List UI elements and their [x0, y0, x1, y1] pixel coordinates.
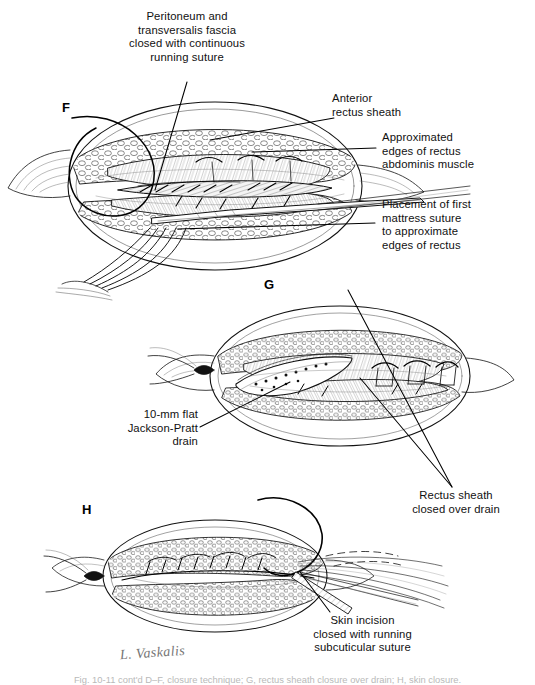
- callout-mattress-suture: Placement of first mattress suture to ap…: [382, 198, 527, 252]
- suture-knot-g: [148, 348, 214, 384]
- figure-page: F G H Peritoneum and transversalis fasci…: [0, 0, 535, 685]
- callout-rectus-sheath-over-drain: Rectus sheath closed over drain: [386, 489, 526, 516]
- panel-letter-f: F: [62, 100, 70, 115]
- panel-letter-g: G: [264, 277, 274, 292]
- panel-letter-h: H: [82, 502, 92, 517]
- callout-peritoneum: Peritoneum and transversalis fascia clos…: [82, 10, 292, 64]
- suture-knot-h: [44, 550, 104, 592]
- callout-skin-incision: Skin incision closed with running subcut…: [280, 614, 445, 655]
- illustration-artwork: [0, 0, 535, 685]
- figure-caption: Fig. 10-11 cont'd D–F, closure technique…: [0, 674, 535, 685]
- panel-h-artwork: [44, 498, 448, 632]
- needle-holder: [292, 572, 418, 614]
- artist-signature: L. Vaskalis: [120, 643, 186, 664]
- callout-approximated-edges: Approximated edges of rectus abdominis m…: [382, 131, 522, 172]
- panel-g-artwork: [148, 306, 514, 446]
- jackson-pratt-drain-artwork: [236, 354, 352, 396]
- callout-anterior-rectus-sheath: Anterior rectus sheath: [332, 92, 452, 119]
- callout-jackson-pratt-drain: 10-mm flat Jackson-Pratt drain: [16, 408, 198, 449]
